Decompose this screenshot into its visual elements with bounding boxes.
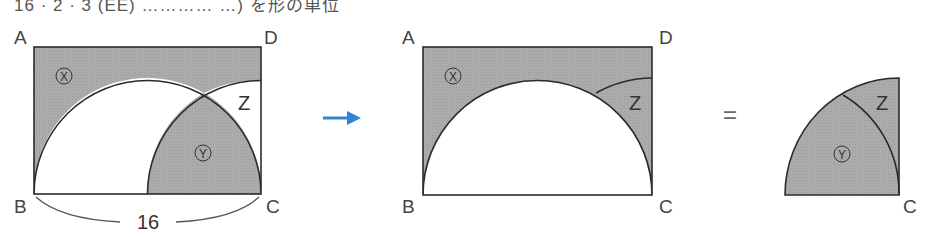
vertex-c: C (659, 196, 673, 217)
vertex-a: A (402, 27, 415, 48)
vertex-d: D (659, 27, 673, 48)
region-x-label: X (449, 70, 457, 84)
length-label-16: 16 (137, 211, 159, 233)
vertex-b: B (402, 196, 415, 217)
diagram-3-quarter-circle: C Y Z (785, 78, 917, 217)
region-z-label: Z (876, 92, 888, 114)
region-x-label: X (60, 70, 68, 84)
right-arrow-icon (323, 111, 361, 125)
region-z-label: Z (629, 92, 641, 114)
vertex-c: C (903, 196, 917, 217)
equals-sign: = (723, 101, 737, 128)
diagram-2-rectangle-abcd: A D B C X Z (402, 27, 673, 217)
region-z-label: Z (238, 92, 250, 114)
vertex-c: C (266, 196, 280, 217)
vertex-a: A (14, 27, 27, 48)
geometry-figure: 16 A D B C X Y Z A D B C X Z = C (0, 0, 927, 237)
diagram-1-rectangle-abcd: 16 A D B C X Y Z (14, 27, 280, 233)
region-y-label: Y (199, 147, 207, 161)
region-y-label: Y (838, 148, 846, 162)
vertex-d: D (264, 27, 278, 48)
vertex-b: B (14, 196, 27, 217)
